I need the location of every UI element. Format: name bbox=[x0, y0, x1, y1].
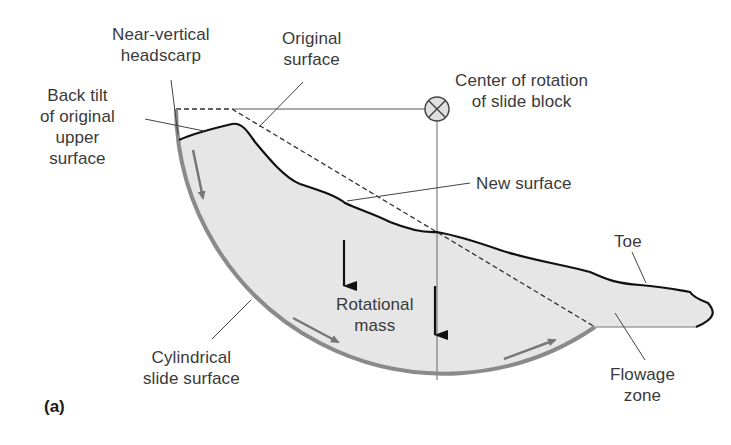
label-headscarp: Near-vertical headscarp bbox=[112, 24, 210, 66]
leader-cylindrical bbox=[212, 300, 251, 339]
circle-x-icon bbox=[425, 97, 449, 121]
slump-diagram: Near-vertical headscarp Original surface… bbox=[0, 0, 731, 445]
leader-toe bbox=[632, 252, 646, 283]
label-cylindrical-slide-surface: Cylindrical slide surface bbox=[143, 347, 240, 389]
label-original-surface: Original surface bbox=[282, 28, 341, 70]
leader-original-surface bbox=[259, 82, 303, 127]
leader-headscarp bbox=[171, 80, 178, 135]
label-toe: Toe bbox=[614, 231, 642, 252]
label-center-of-rotation: Center of rotation of slide block bbox=[455, 70, 588, 112]
label-back-tilt: Back tilt of original upper surface bbox=[40, 85, 115, 169]
panel-label: (a) bbox=[44, 397, 65, 417]
label-flowage-zone: Flowage zone bbox=[610, 364, 675, 406]
leader-new-surface bbox=[347, 183, 470, 201]
label-new-surface: New surface bbox=[476, 173, 572, 194]
label-rotational-mass: Rotational mass bbox=[336, 294, 414, 336]
